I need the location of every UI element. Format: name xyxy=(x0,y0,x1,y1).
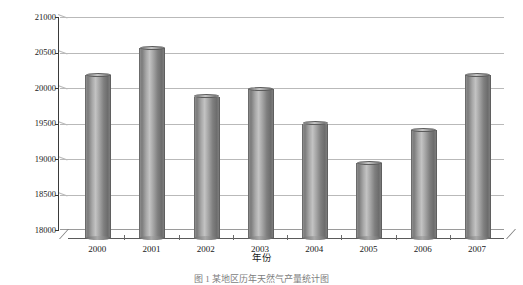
bar-series xyxy=(58,12,510,239)
y-axis-tick-labels: 21000205002000019500190001850018000 xyxy=(10,0,56,281)
bar-base-cap xyxy=(140,236,165,240)
bar xyxy=(465,75,491,238)
figure-caption: 图 1 某地区历年天然气产量统计图 xyxy=(0,272,523,285)
y-tick-label: 18000 xyxy=(12,226,56,235)
bar-base-cap xyxy=(357,236,382,240)
bar xyxy=(139,48,165,238)
bar xyxy=(302,124,328,239)
bar xyxy=(411,130,437,238)
bar-top-cap xyxy=(411,128,436,132)
y-tick-label: 18500 xyxy=(12,190,56,199)
bar-top-cap xyxy=(194,94,219,98)
bar-base-cap xyxy=(303,236,328,240)
bar xyxy=(356,163,382,238)
bar-top-cap xyxy=(248,87,273,91)
y-tick-label: 21000 xyxy=(12,13,56,22)
bar-base-cap xyxy=(411,236,436,240)
y-tick-label: 20000 xyxy=(12,84,56,93)
bar-base-cap xyxy=(248,236,273,240)
bar xyxy=(194,97,220,238)
plot-area: 20002001200220032004200520062007 xyxy=(58,12,510,240)
bar xyxy=(248,89,274,238)
bar-top-cap xyxy=(357,161,382,165)
bar-top-cap xyxy=(140,46,165,50)
bar-base-cap xyxy=(194,236,219,240)
bar-top-cap xyxy=(86,73,111,77)
bar-top-cap xyxy=(303,121,328,125)
x-axis-title: 年份 xyxy=(0,250,523,264)
y-tick-label: 20500 xyxy=(12,48,56,57)
bar xyxy=(85,75,111,238)
bar-top-cap xyxy=(465,73,490,77)
y-tick-label: 19000 xyxy=(12,155,56,164)
bar-base-cap xyxy=(465,236,490,240)
y-tick-label: 19500 xyxy=(12,119,56,128)
bar-base-cap xyxy=(86,236,111,240)
